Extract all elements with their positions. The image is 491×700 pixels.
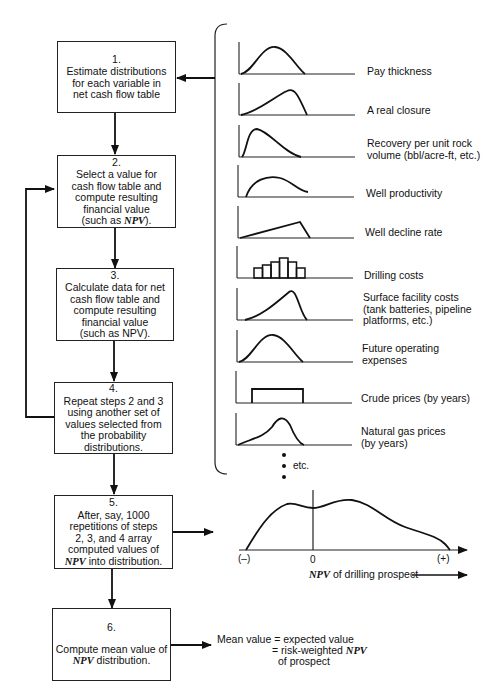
distribution-curve	[241, 47, 305, 74]
step-text: compute resulting	[74, 305, 157, 317]
label-line: Well productivity	[366, 187, 442, 199]
distributions-brace	[215, 24, 227, 474]
npv-tick-positive: (+)	[437, 553, 450, 564]
loop-arrow-4-to-2	[26, 189, 55, 417]
dist-label-well-productivity: Well productivity	[366, 188, 442, 200]
mean-value-text: Mean value = expected value = risk-weigh…	[217, 634, 367, 667]
step-number: 3.	[111, 270, 120, 282]
distribution-chart-3	[238, 165, 354, 197]
ellipsis-dot	[282, 464, 286, 468]
histogram-bar	[254, 268, 263, 278]
step-2-box: 2. Select a value for cash flow table an…	[57, 155, 176, 228]
step-text: Calculate data for net	[65, 282, 165, 294]
step-text: using another set of	[67, 407, 159, 419]
distribution-chart-1	[239, 83, 355, 115]
step-number: 6.	[107, 622, 116, 634]
npv-tick-zero: 0	[310, 554, 316, 565]
npv-italic: NPV	[309, 569, 330, 580]
distribution-chart-5	[237, 246, 353, 278]
label-line: Recovery per unit rock	[367, 137, 472, 149]
npv-distribution-curve	[246, 500, 450, 550]
step-text: distributions.	[84, 442, 143, 454]
step-number: 4.	[109, 383, 118, 395]
step-text: (such as NPV).	[80, 328, 151, 340]
label-line: volume (bbl/acre-ft, etc.)	[367, 149, 480, 161]
npv-italic: NPV	[124, 215, 145, 226]
mean-line-3: of prospect	[217, 655, 330, 667]
label-line: Drilling costs	[364, 269, 424, 281]
step-3-box: 3. Calculate data for net cash flow tabl…	[56, 268, 174, 341]
label-line: Future operating	[362, 342, 439, 354]
step-number: 5.	[109, 497, 118, 509]
distribution-chart-0	[239, 42, 355, 74]
histogram-bar	[288, 262, 297, 278]
distribution-curve	[240, 222, 310, 238]
step-6-box: 6. Compute mean value of NPV distributio…	[52, 608, 171, 681]
ellipsis-dot	[282, 453, 286, 457]
step-number: 2.	[112, 157, 121, 169]
step-4-box: 4. Repeat steps 2 and 3 using another se…	[54, 382, 173, 454]
step-text: net cash flow table	[73, 89, 160, 101]
distribution-curve	[252, 389, 303, 403]
distribution-chart-6	[237, 288, 353, 320]
dist-label-well-decline-rate: Well decline rate	[365, 227, 442, 239]
etc-label: etc.	[293, 460, 309, 472]
distribution-chart-8	[236, 371, 352, 403]
distribution-curve	[239, 335, 303, 362]
histogram-bar	[263, 265, 272, 278]
npv-distribution-chart	[239, 490, 467, 575]
label-line: A real closure	[367, 104, 431, 116]
label-line: Natural gas prices	[361, 425, 446, 437]
text-part: of drilling prospect	[330, 568, 418, 580]
label-line: platforms, etc.)	[363, 314, 432, 326]
dist-label-crude-prices: Crude prices (by years)	[361, 393, 470, 405]
ellipsis-dot	[282, 475, 286, 479]
step-5-box: 5. After, say, 1000 repetitions of steps…	[54, 495, 173, 569]
step-text: (such as NPV).	[81, 215, 151, 227]
label-line: (tank batteries, pipeline	[363, 303, 472, 315]
distribution-curve	[246, 177, 308, 197]
step-text: compute resulting	[75, 192, 158, 204]
npv-italic: NPV	[73, 655, 94, 666]
npv-italic: NPV	[346, 645, 367, 656]
step-text: repetitions of steps	[69, 521, 157, 533]
distribution-chart-9	[236, 413, 352, 445]
npv-axis-label: NPV of drilling prospect	[309, 569, 418, 581]
step-text: NPV into distribution.	[65, 556, 162, 568]
distribution-chart-7	[237, 330, 353, 362]
distribution-charts	[236, 42, 355, 445]
step-text: Select a value for	[76, 169, 157, 181]
label-line: Pay thickness	[367, 65, 432, 77]
dist-label-recovery: Recovery per unit rockvolume (bbl/acre-f…	[367, 138, 480, 161]
text-part: ).	[145, 214, 151, 226]
distribution-curve	[242, 129, 301, 157]
npv-italic: NPV	[65, 556, 86, 567]
text-part: distribution.	[94, 654, 151, 666]
histogram-bar	[297, 268, 306, 278]
dist-label-areal-closure: A real closure	[367, 105, 431, 117]
dist-label-gas-prices: Natural gas prices(by years)	[361, 426, 446, 449]
histogram-bar	[280, 258, 289, 278]
step-text: Estimate distributions	[67, 66, 167, 78]
text-part: into distribution.	[86, 555, 162, 567]
label-line: expenses	[362, 354, 407, 366]
step-1-box: 1. Estimate distributions for each varia…	[57, 41, 176, 113]
dist-label-operating-expenses: Future operatingexpenses	[362, 343, 439, 366]
dist-label-pay-thickness: Pay thickness	[367, 66, 432, 78]
step-text: the probability	[81, 430, 146, 442]
distribution-curve	[245, 291, 307, 320]
distribution-chart-2	[239, 125, 355, 157]
text-part: (such as	[81, 214, 124, 226]
label-line: Surface facility costs	[363, 291, 459, 303]
step-text: NPV distribution.	[73, 655, 151, 667]
step-number: 1.	[112, 54, 121, 66]
distribution-chart-4	[238, 206, 354, 238]
histogram-bar	[271, 262, 280, 278]
label-line: (by years)	[361, 437, 408, 449]
dist-label-surface-facility: Surface facility costs(tank batteries, p…	[363, 292, 472, 327]
label-line: Well decline rate	[365, 226, 442, 238]
distribution-curve	[238, 418, 304, 445]
label-line: Crude prices (by years)	[361, 392, 470, 404]
npv-tick-negative: (–)	[238, 553, 250, 564]
distribution-curve	[241, 90, 307, 115]
